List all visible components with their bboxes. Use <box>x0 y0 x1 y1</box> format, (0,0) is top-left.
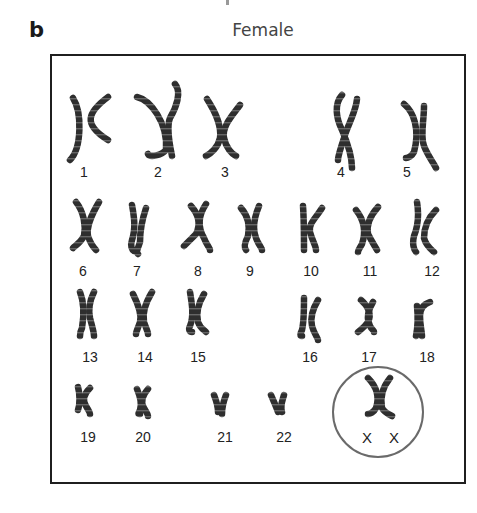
chromosome-pair-21 <box>214 395 226 414</box>
chromosome-pair-15 <box>189 292 206 332</box>
chromosome-label: 16 <box>302 350 318 364</box>
chromosome-pair-20 <box>137 389 148 416</box>
chromosome-pair-6 <box>73 202 99 250</box>
chromosome-pair-14 <box>133 292 152 334</box>
chromosome-pair-2 <box>137 84 178 156</box>
chromosome-label: 17 <box>361 350 377 364</box>
chromosome-label: 11 <box>363 264 378 278</box>
chromosome-label: 1 <box>80 165 88 179</box>
chromosome-label: 8 <box>194 264 202 278</box>
chromosome-label: 5 <box>403 165 411 179</box>
chromosome-label: 4 <box>337 165 345 179</box>
chromosome-label: 19 <box>80 430 96 444</box>
chromosome-label: 22 <box>276 430 292 444</box>
chromosome-label: 12 <box>424 264 440 278</box>
chromosome-label: 2 <box>154 165 162 179</box>
chromosome-pair-16 <box>301 298 319 340</box>
chromosome-pair-10 <box>303 206 322 250</box>
chromosome-pair-22 <box>271 395 284 412</box>
chromosome-label: 6 <box>79 264 87 278</box>
chromosome-pair-18 <box>416 302 430 336</box>
chromosome-pair-3 <box>206 99 240 156</box>
chromosome-pair-17 <box>358 300 374 332</box>
chromosome-label: 18 <box>419 350 435 364</box>
chromosome-pair-11 <box>356 207 378 252</box>
chromosome-label: 10 <box>303 264 319 278</box>
chromosome-label: 15 <box>190 350 206 364</box>
chromosome-label: 20 <box>135 430 151 444</box>
chromosome-label: 3 <box>221 165 229 179</box>
karyotype-diagram <box>0 0 477 513</box>
chromosome-pair-8 <box>184 204 210 250</box>
chromosome-label: 7 <box>133 264 141 278</box>
chromosome-pair-9 <box>241 206 262 250</box>
chromosome-pair-5 <box>404 104 436 168</box>
sex-chromosome-highlight-circle <box>333 367 423 457</box>
chromosome-label: 21 <box>217 430 233 444</box>
chromosome-pair-1 <box>70 97 108 160</box>
chromosome-pair-4 <box>337 95 357 168</box>
chromosome-label: 14 <box>137 350 153 364</box>
sex-chromosome-label: X <box>362 430 372 445</box>
chromosome-label: 13 <box>82 350 98 364</box>
chromosome-pair-12 <box>413 202 436 252</box>
sex-chromosome-label: X <box>389 430 399 445</box>
chromosome-pair-7 <box>131 205 146 254</box>
chromosome-label: 9 <box>246 264 254 278</box>
chromosome-pair-13 <box>80 292 94 336</box>
chromosome-pair-19 <box>78 387 90 414</box>
x-chromosome-pair <box>368 378 392 416</box>
